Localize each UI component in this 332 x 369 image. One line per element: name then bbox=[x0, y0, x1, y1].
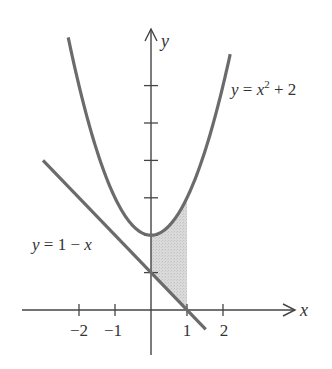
line-label: y = 1 − x bbox=[30, 235, 92, 254]
y-axis-label: y bbox=[159, 31, 169, 51]
parabola-label: y = x2 + 2 bbox=[229, 78, 296, 99]
x-tick-label: −2 bbox=[70, 321, 88, 340]
x-tick-label: −1 bbox=[104, 321, 122, 340]
x-axis-label: x bbox=[299, 300, 308, 320]
y-axis bbox=[145, 29, 157, 355]
x-tick-label: 1 bbox=[183, 321, 192, 340]
x-tick-label: 2 bbox=[220, 321, 229, 340]
x-axis bbox=[22, 304, 295, 316]
parabola-curve bbox=[68, 37, 230, 235]
plot-figure: y x −2 −1 1 2 y = x2 + 2 y = 1 − x bbox=[0, 0, 332, 369]
